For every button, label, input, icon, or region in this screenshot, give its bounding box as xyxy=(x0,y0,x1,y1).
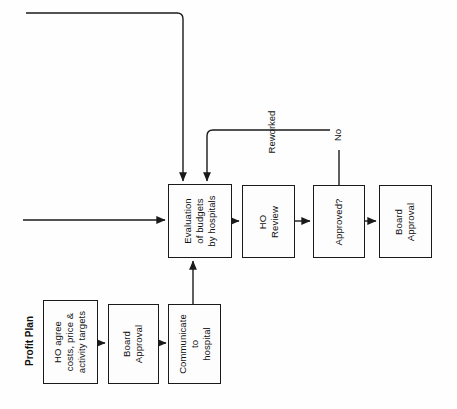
node-evaluation-of-budgets[interactable]: Evaluation of budgets by hospitals xyxy=(168,184,232,258)
node-ho-agree[interactable]: HO agree costs, price & activity targets xyxy=(43,300,98,384)
edge-top-feedback-to-evaluation xyxy=(26,13,183,181)
node-approved-decision-label: Approved? xyxy=(333,198,345,245)
node-ho-agree-label: HO agree costs, price & activity targets xyxy=(53,311,89,373)
node-evaluation-of-budgets-label: Evaluation of budgets by hospitals xyxy=(182,195,218,246)
node-board-approval-profit-plan[interactable]: Board Approval xyxy=(108,304,159,384)
edge-label-no: No xyxy=(332,122,344,148)
node-board-approval-final-label: Board Approval xyxy=(393,202,417,240)
node-communicate-to-hospital[interactable]: Communicate to hospital xyxy=(168,304,221,384)
node-approved-decision[interactable]: Approved? xyxy=(313,185,365,258)
group-label-profit-plan: Profit Plan xyxy=(24,311,36,371)
node-board-approval-final[interactable]: Board Approval xyxy=(379,185,432,258)
edge-label-reworked: Reworked xyxy=(266,104,278,160)
node-ho-review-label: HO Review xyxy=(257,206,281,238)
flowchart-canvas: HO agree costs, price & activity targets… xyxy=(0,0,457,409)
node-communicate-to-hospital-label: Communicate to hospital xyxy=(177,314,213,374)
node-board-approval-profit-plan-label: Board Approval xyxy=(121,325,145,363)
node-ho-review[interactable]: HO Review xyxy=(242,185,295,258)
